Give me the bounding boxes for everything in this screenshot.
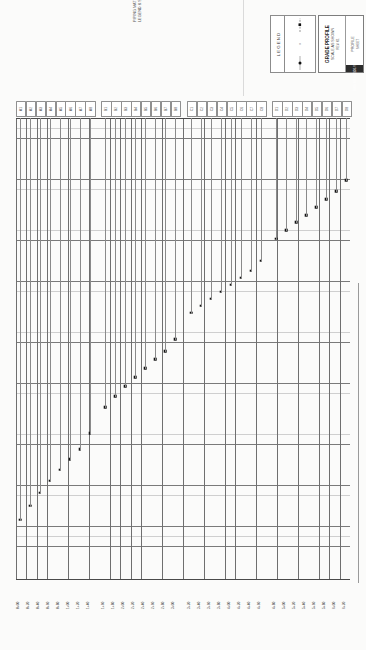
station-drop-line [326,118,327,200]
drawing-revision: REV. 01 [335,25,339,63]
station-label-row: A1A2A3A4A5A6A7A8B1B2B3B4B5B6B7B8C1C2C3C4… [16,96,350,612]
legend-title: LEGEND [271,16,285,72]
title-block-main: GRADE PROFILE SCALE AS SHOWN REV. 01 [319,16,346,72]
x-axis-tick-text: 6+00 [332,602,336,609]
x-axis-tick-text: 5+00 [282,602,286,609]
title-block-side: PROFILE SHEET DWG NO. M-0100 / SHEET 1 O… [346,16,363,72]
station-drop-line [191,118,192,314]
title-block-footer: DWG NO. M-0100 / SHEET 1 OF 4 [353,47,357,91]
drawing-note: PIPING MATERIALS LEGEND & SYMBOLS [133,0,142,22]
station-label-box: A6 [65,101,75,117]
station-drop-line [276,118,277,240]
note-line-2: LEGEND & SYMBOLS [138,0,143,22]
station-label-text: A8 [89,107,93,111]
station-label-text: D3 [295,107,299,111]
station-drop-line [306,118,307,216]
station-drop-line [221,118,222,293]
station-drop-line [135,118,136,378]
station-label-box: D1 [272,101,282,117]
station-drop-line [251,118,252,272]
legend-item [285,54,315,72]
x-axis-tick-text: 5+20 [292,602,296,609]
x-axis-tick-text: 4+40 [247,602,251,609]
x-axis-tick-text: 1+80 [111,602,115,609]
station-label-text: D5 [315,107,319,111]
x-axis-tick-text: 6+20 [342,602,346,609]
station-label-text: C5 [230,107,234,111]
x-axis-tick-text: 4+00 [227,602,231,609]
station-drop-line [336,118,337,192]
station-label-text: D2 [285,107,289,111]
station-label-text: A5 [59,107,63,111]
sheet-right-rule-line [358,283,359,583]
station-label-text: B6 [154,107,158,111]
x-axis-tick-text: 1+20 [76,602,80,609]
title-block: GRADE PROFILE SCALE AS SHOWN REV. 01 PRO… [318,15,364,73]
legend-entries: = [285,16,315,72]
station-drop-line [155,118,156,360]
station-label-text: C7 [250,107,254,111]
x-axis-tick-text: 3+20 [187,602,191,609]
station-label-box: A1 [16,101,26,117]
legend-box: LEGEND = [270,15,316,73]
station-drop-line [30,118,31,507]
station-label-box: A3 [36,101,46,117]
station-drop-line [201,118,202,307]
x-axis-tick-text: 4+60 [257,602,261,609]
legend-item: = [285,35,315,53]
legend-equals-label: = [298,43,302,45]
station-label-box: A4 [46,101,56,117]
title-block-footer-bar: DWG NO. M-0100 / SHEET 1 OF 4 [346,65,363,72]
station-drop-line [20,118,21,521]
station-label-box: C7 [246,101,256,117]
station-label-text: A3 [39,107,43,111]
x-axis-tick-text: 0+40 [36,602,40,609]
station-label-box: B3 [121,101,131,117]
x-axis-tick-text: 4+80 [272,602,276,609]
station-label-text: C2 [200,107,204,111]
station-label-text: A6 [69,107,73,111]
dashed-line-icon [298,18,303,32]
station-drop-line [60,118,61,471]
station-drop-line [40,118,41,494]
station-drop-line [231,118,232,286]
station-label-box: D4 [302,101,312,117]
station-label-text: D6 [325,107,329,111]
station-label-box: A2 [26,101,36,117]
x-axis-tick-text: 0+60 [46,602,50,609]
sheet-divider-line [243,0,244,96]
x-axis-tick-text: 4+20 [237,602,241,609]
station-label-box: D2 [282,101,292,117]
station-label-text: C8 [260,107,264,111]
station-label-text: B3 [124,107,128,111]
x-axis-tick-text: 5+60 [312,602,316,609]
station-drop-line [175,118,176,340]
station-label-box: C8 [256,101,266,117]
station-label-box: C4 [217,101,227,117]
station-label-text: C1 [190,107,194,111]
drawing-subtitle: SCALE AS SHOWN [331,25,336,63]
station-drop-line [145,118,146,369]
x-axis-tick-text: 3+80 [217,602,221,609]
station-label-text: C6 [240,107,244,111]
x-axis-tick-text: 2+80 [161,602,165,609]
station-label-text: D1 [275,107,279,111]
legend-item [285,16,315,34]
legend-title-label: LEGEND [275,32,280,57]
station-label-box: B8 [171,101,181,117]
station-label-box: C3 [207,101,217,117]
station-label-text: A7 [79,107,83,111]
station-label-box: B6 [151,101,161,117]
x-axis-tick-text: 3+60 [207,602,211,609]
station-drop-line [105,118,106,408]
station-drop-line [211,118,212,300]
station-drop-line [80,118,81,450]
station-label-text: A1 [19,107,23,111]
x-axis-tick-text: 0+00 [16,602,20,609]
profile-chart: A1A2A3A4A5A6A7A8B1B2B3B4B5B6B7B8C1C2C3C4… [0,96,350,612]
x-axis-tick-text: 2+40 [141,602,145,609]
x-axis-tick-text: 2+00 [121,602,125,609]
station-label-text: B5 [144,107,148,111]
x-axis-label-row: 0+000+200+400+600+801+001+201+401+601+80… [16,582,350,612]
station-label-box: A7 [75,101,85,117]
